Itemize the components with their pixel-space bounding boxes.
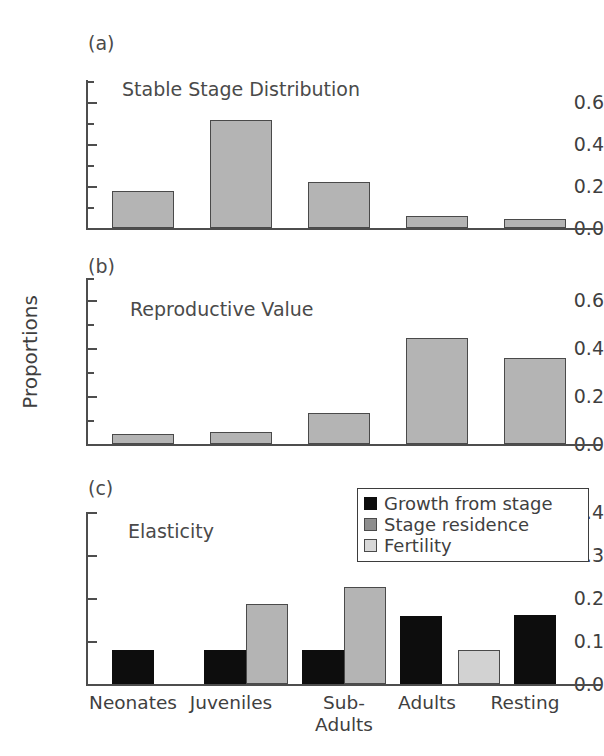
legend-swatch-icon bbox=[364, 539, 377, 552]
bar-neonates bbox=[112, 434, 174, 444]
legend-item-fertility: Fertility bbox=[364, 535, 581, 556]
legend-item-growth-from-stage: Growth from stage bbox=[364, 493, 581, 514]
panel-b-label: (b) bbox=[88, 255, 115, 277]
figure-root: Proportions (a) Stable Stage Distributio… bbox=[0, 0, 604, 756]
legend: Growth from stage Stage residence Fertil… bbox=[357, 488, 589, 562]
panel-b-bars bbox=[86, 278, 602, 446]
bar-resting-growth bbox=[514, 615, 556, 684]
x-label-juveniles: Juveniles bbox=[171, 692, 291, 714]
bar-neonates bbox=[112, 191, 174, 228]
bar-adults bbox=[406, 216, 468, 228]
bar-juveniles-growth bbox=[204, 650, 246, 684]
bar-subadults bbox=[308, 413, 370, 444]
bar-juveniles bbox=[210, 432, 272, 444]
legend-label: Growth from stage bbox=[384, 495, 552, 513]
bar-adults-fertility bbox=[458, 650, 500, 684]
bar-adults-growth bbox=[400, 616, 442, 684]
x-label-resting: Resting bbox=[465, 692, 585, 714]
panel-b: (b) Reproductive Value 0.6 0.4 0.2 0.0 bbox=[0, 250, 604, 460]
legend-swatch-icon bbox=[364, 497, 377, 510]
bar-subadults-growth bbox=[302, 650, 344, 684]
legend-swatch-icon bbox=[364, 518, 377, 531]
bar-juveniles bbox=[210, 120, 272, 228]
panel-a-label: (a) bbox=[88, 32, 114, 54]
panel-c-label: (c) bbox=[88, 477, 113, 499]
legend-label: Fertility bbox=[384, 537, 452, 555]
panel-a: (a) Stable Stage Distribution 0.6 0.4 0.… bbox=[0, 0, 604, 250]
bar-adults bbox=[406, 338, 468, 444]
bar-resting bbox=[504, 219, 566, 229]
panel-c: (c) Elasticity 0.4 0.3 0.2 0.1 0.0 bbox=[0, 460, 604, 756]
panel-a-plot bbox=[86, 80, 602, 230]
legend-label: Stage residence bbox=[384, 516, 529, 534]
bar-subadults bbox=[308, 182, 370, 228]
bar-resting bbox=[504, 358, 566, 444]
bar-juveniles-residence bbox=[246, 604, 288, 685]
bar-neonates-growth bbox=[112, 650, 154, 684]
panel-b-plot bbox=[86, 278, 602, 446]
legend-item-stage-residence: Stage residence bbox=[364, 514, 581, 535]
bar-subadults-residence bbox=[344, 587, 386, 684]
panel-a-bars bbox=[86, 80, 602, 230]
